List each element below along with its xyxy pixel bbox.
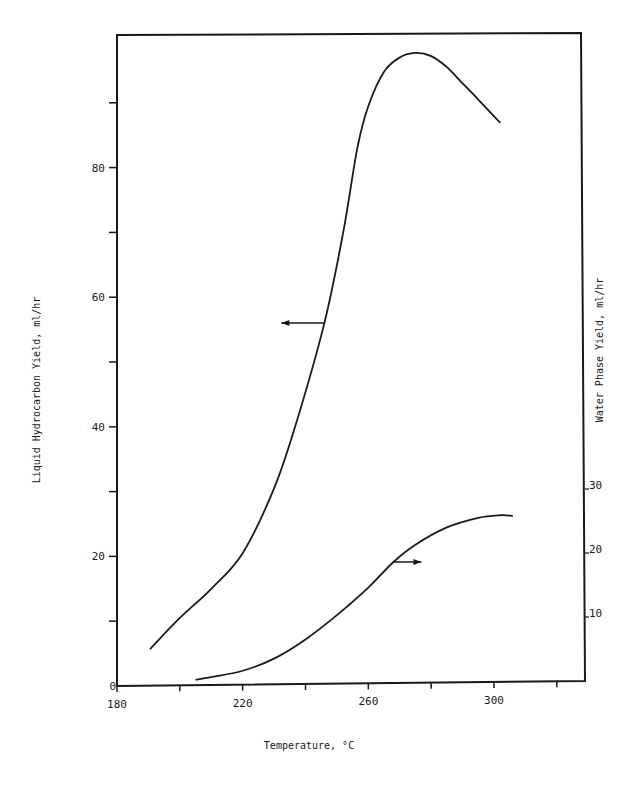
axis-indicator-arrows [281,320,421,565]
y-tick-label: 60 [92,291,105,304]
y2-tick-label: 20 [589,543,602,556]
liquid-hydrocarbon-yield-line [150,53,500,649]
y-axis-title: Liquid Hydrocarbon Yield, ml/hr [31,297,42,484]
y2-axis-title: Water Phase Yield, ml/hr [594,278,605,423]
x-tick-label: 180 [107,698,127,711]
plot-border [117,33,585,686]
y-tick-label: 0 [109,680,116,693]
plot-frame [117,33,585,686]
arrow-right-icon [413,559,421,565]
y-tick-label: 20 [92,550,105,563]
y-tick-label: 80 [92,162,105,175]
y-axis-ticks: 020406080 [92,103,117,693]
data-series [150,53,513,680]
y2-tick-label: 30 [589,479,602,492]
chart: 180220260300 020406080 102030 Temperatur… [0,0,640,786]
y2-axis-ticks: 102030 [585,479,602,620]
x-tick-label: 300 [484,694,504,707]
x-axis-title: Temperature, °C [264,740,354,751]
x-tick-label: 260 [358,695,378,708]
y2-tick-label: 10 [589,607,602,620]
x-tick-label: 220 [233,697,253,710]
y-tick-label: 40 [92,421,105,434]
arrow-left-icon [281,320,289,326]
water-phase-yield-line [196,515,513,680]
